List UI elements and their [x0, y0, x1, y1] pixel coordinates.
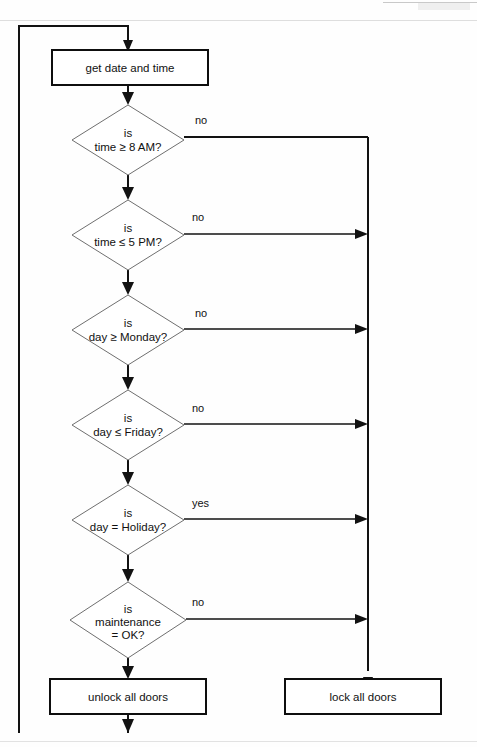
day-ge-monday-diamond[interactable]: [72, 295, 184, 365]
get-date-time-label: get date and time: [86, 62, 175, 74]
right-rail-connector: [363, 137, 373, 690]
day-eq-holiday-diamond[interactable]: [72, 485, 184, 555]
maintenance-ok-label-line1: is: [124, 603, 133, 615]
branch-label-time-le-5pm: no: [192, 211, 204, 223]
node-maintenance-ok[interactable]: is maintenance = OK?: [70, 582, 186, 658]
day-eq-holiday-label-line1: is: [124, 507, 133, 519]
node-unlock-all-doors[interactable]: unlock all doors: [50, 679, 206, 714]
flowchart-page: get date and time is time ≥ 8 AM? is tim…: [0, 0, 477, 747]
branch-label-day-eq-holiday: yes: [192, 497, 210, 509]
lock-all-doors-label: lock all doors: [329, 691, 396, 703]
node-get-date-time[interactable]: get date and time: [52, 50, 208, 85]
branch-label-day-le-friday: no: [192, 402, 204, 414]
time-le-5pm-meridiem: PM?: [138, 236, 162, 248]
node-lock-all-doors[interactable]: lock all doors: [285, 679, 441, 714]
time-ge-8am-label-line1: is: [124, 127, 133, 139]
branch-label-group: no no no no yes no: [192, 114, 210, 608]
time-ge-8am-label-line2: time ≥ 8 AM?: [94, 141, 161, 153]
flowchart-canvas: get date and time is time ≥ 8 AM? is tim…: [0, 0, 477, 747]
time-ge-8am-diamond[interactable]: [72, 105, 184, 175]
node-day-le-friday[interactable]: is day ≤ Friday?: [72, 390, 184, 460]
day-ge-monday-label-line2: day ≥ Monday?: [89, 331, 168, 343]
day-le-friday-diamond[interactable]: [72, 390, 184, 460]
time-le-5pm-diamond[interactable]: [72, 200, 184, 270]
unlock-down-arrowhead: [122, 719, 134, 733]
branch-label-maintenance-ok: no: [192, 596, 204, 608]
time-ge-8am-condition: time ≥ 8: [94, 141, 137, 153]
maintenance-ok-label-line3: = OK?: [112, 629, 145, 641]
day-eq-holiday-label-line2: day = Holiday?: [90, 521, 166, 533]
unlock-all-doors-label: unlock all doors: [88, 691, 168, 703]
time-ge-8am-meridiem: AM?: [138, 141, 162, 153]
node-time-ge-8am[interactable]: is time ≥ 8 AM?: [72, 105, 184, 175]
maintenance-ok-label-line2: maintenance: [95, 616, 161, 628]
time-le-5pm-condition: time ≤ 5: [94, 236, 138, 248]
time-le-5pm-label-line2: time ≤ 5 PM?: [94, 236, 162, 248]
branch-label-time-ge-8am: no: [195, 114, 207, 126]
time-le-5pm-label-line1: is: [124, 222, 133, 234]
node-day-eq-holiday[interactable]: is day = Holiday?: [72, 485, 184, 555]
node-time-le-5pm[interactable]: is time ≤ 5 PM?: [72, 200, 184, 270]
day-ge-monday-label-line1: is: [124, 317, 133, 329]
day-le-friday-label-line1: is: [124, 412, 133, 424]
branch-label-day-ge-monday: no: [195, 307, 207, 319]
node-day-ge-monday[interactable]: is day ≥ Monday?: [72, 295, 184, 365]
branch-connectors: [184, 137, 368, 624]
day-le-friday-label-line2: day ≤ Friday?: [93, 426, 163, 438]
